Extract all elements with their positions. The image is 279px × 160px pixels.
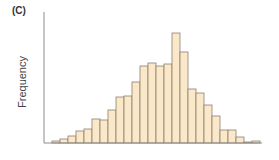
histogram-bar bbox=[156, 66, 164, 143]
histogram-bar bbox=[180, 52, 188, 143]
histogram-bar bbox=[236, 137, 244, 143]
histogram bbox=[0, 0, 279, 160]
histogram-bar bbox=[172, 33, 180, 143]
histogram-bar bbox=[204, 105, 212, 143]
histogram-bars bbox=[52, 33, 260, 143]
histogram-bar bbox=[84, 129, 92, 143]
histogram-bar bbox=[212, 116, 220, 143]
histogram-bar bbox=[116, 97, 124, 143]
histogram-bar bbox=[220, 130, 228, 143]
histogram-bar bbox=[164, 64, 172, 143]
histogram-bar bbox=[228, 130, 236, 143]
histogram-bar bbox=[148, 63, 156, 143]
histogram-bar bbox=[76, 131, 84, 143]
histogram-bar bbox=[68, 136, 76, 143]
histogram-bar bbox=[140, 66, 148, 143]
histogram-bar bbox=[196, 93, 204, 143]
histogram-bar bbox=[188, 89, 196, 143]
histogram-bar bbox=[60, 139, 68, 143]
histogram-bar bbox=[92, 119, 100, 143]
histogram-bar bbox=[124, 96, 132, 143]
histogram-bar bbox=[108, 110, 116, 143]
histogram-bar bbox=[100, 120, 108, 143]
histogram-bar bbox=[132, 82, 140, 143]
